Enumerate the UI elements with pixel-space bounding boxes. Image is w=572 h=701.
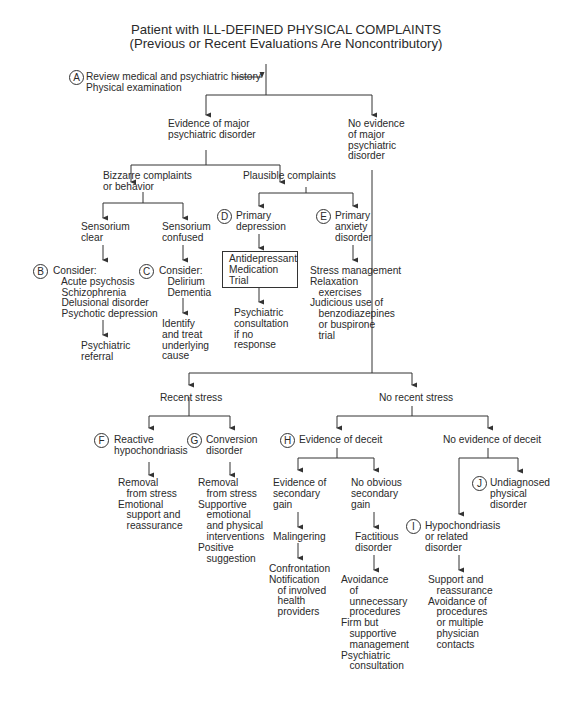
primary-depression-node: Primary depression [236,211,286,233]
no-evidence-of-deceit-node: No evidence of deceit [443,435,541,446]
factitious-disorder-node: Factitious disorder [355,532,399,554]
reactive-treatment-node: Removal from stress Emotional support an… [118,478,183,532]
review-history-node: Review medical and psychiatric history P… [86,72,261,94]
no-recent-stress-node: No recent stress [379,393,453,404]
step-a-marker: A [69,70,84,85]
antidepressant-box: Antidepressant Medication Trial [222,251,298,288]
step-f-marker: F [94,433,109,448]
no-major-psychiatric-node: No evidence of major psychiatric disorde… [348,119,405,162]
step-e-marker: E [316,209,331,224]
identify-treat-node: Identify and treat underlying cause [162,319,209,362]
plausible-complaints-node: Plausible complaints [243,171,336,182]
malingering-treatment-node: Confrontation Notification of involved h… [269,564,330,618]
factitious-treatment-node: Avoidance of unnecessary procedures Firm… [341,575,409,672]
step-g-marker: G [187,433,202,448]
sensorium-confused-node: Sensorium confused [162,222,211,244]
anxiety-treatment-node: Stress management Relaxation exercises J… [310,266,401,342]
step-i-marker: I [406,519,421,534]
reactive-hypochondriasis-node: Reactive hypochondriasis [114,435,188,457]
evidence-of-deceit-node: Evidence of deceit [299,435,382,446]
step-h-marker: H [280,433,295,448]
step-c-marker: C [139,264,154,279]
antidepressant-trial-text: Antidepressant Medication Trial [229,254,297,286]
consider-delirium-node: Consider: Delirium Dementia [159,266,211,298]
sensorium-clear-node: Sensorium clear [81,222,130,244]
primary-anxiety-node: Primary anxiety disorder [335,211,372,243]
title-line-1: Patient with ILL-DEFINED PHYSICAL COMPLA… [0,23,572,37]
secondary-gain-node: Evidence of secondary gain [273,478,326,510]
undiagnosed-physical-node: Undiagnosed physical disorder [490,478,550,510]
psychiatric-consultation-node: Psychiatric consultation if no response [234,308,288,351]
step-b-marker: B [33,264,48,279]
step-d-marker: D [217,209,232,224]
malingering-node: Malingering [273,532,326,543]
conversion-disorder-node: Conversion disorder [206,435,258,457]
psychiatric-referral-node: Psychiatric referral [81,341,130,363]
title-line-2: (Previous or Recent Evaluations Are Nonc… [0,37,572,51]
no-secondary-gain-node: No obvious secondary gain [351,478,402,510]
bizarre-complaints-node: Bizzarre complaints or behavior [103,171,192,193]
step-j-marker: J [472,476,487,491]
major-psychiatric-node: Evidence of major psychiatric disorder [168,119,256,141]
conversion-treatment-node: Removal from stress Supportive emotional… [198,478,264,564]
recent-stress-node: Recent stress [160,393,222,404]
hypochondriasis-treatment-node: Support and reassurance Avoidance of pro… [428,575,493,651]
hypochondriasis-node: Hypochondriasis or related disorder [425,521,500,553]
